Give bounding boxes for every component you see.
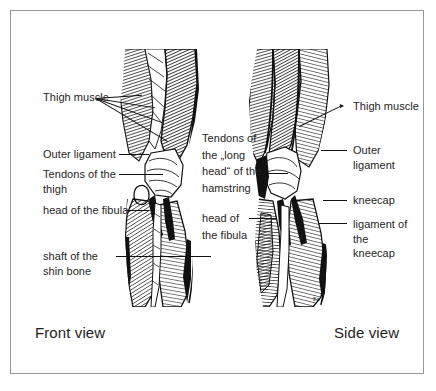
figure-border: Ex Thigh muscle Outer ligament Tendons o…: [10, 10, 424, 374]
caption-side-view: Side view: [334, 324, 399, 342]
label-thigh-muscle-right: Thigh muscle: [353, 99, 419, 114]
anatomy-figure-page: Ex Thigh muscle Outer ligament Tendons o…: [0, 0, 436, 391]
label-thigh-muscle-left: Thigh muscle: [43, 90, 109, 105]
caption-front-view: Front view: [35, 324, 105, 342]
label-ligament-of-the-kneecap: ligament of the kneecap: [353, 217, 423, 261]
label-outer-ligament-left: Outer ligament: [43, 147, 116, 162]
label-head-of-the-fibula-center: head of the fibula: [202, 210, 247, 243]
label-head-of-the-fibula-left: head of the fibula: [43, 203, 128, 218]
leader-ligament-of-the-kneecap: [319, 223, 347, 224]
leader-kneecap: [323, 200, 347, 201]
label-tendons-long-head-hamstring: Tendons of the „long head“ of the hamstr…: [202, 130, 261, 196]
svg-text:Ex: Ex: [313, 296, 320, 302]
label-outer-ligament-right: Outer ligament: [353, 143, 423, 172]
leader-tendons-long-head-hamstring: [264, 173, 288, 174]
label-shaft-of-the-shin-bone: shaft of the shin bone: [43, 249, 98, 278]
leader-head-of-the-fibula-center: [249, 218, 277, 219]
leader-outer-ligament-right: [321, 150, 347, 151]
leader-tendons-of-the-thigh: [119, 174, 163, 175]
front-view-leg-illustration: [111, 49, 209, 309]
label-kneecap: kneecap: [353, 193, 395, 208]
leader-head-of-the-fibula-left: [125, 210, 149, 211]
leader-thigh-muscle-right-arrowhead: [340, 104, 344, 108]
leader-shaft-of-the-shin-bone: [116, 256, 211, 257]
leader-outer-ligament-left: [119, 154, 149, 155]
label-tendons-of-the-thigh: Tendons of the thigh: [43, 167, 116, 196]
